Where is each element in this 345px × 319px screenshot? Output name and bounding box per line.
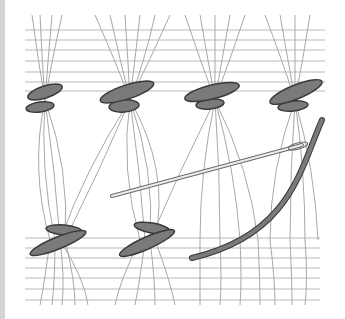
stitch-top-1 [25,81,64,114]
stitch-top-4 [267,75,324,113]
working-thread [192,120,322,258]
stitch-bottom-1 [28,223,88,259]
bottom-stitches [28,220,177,261]
hemstitch-illustration [0,0,345,319]
fabric-bottom-weave [25,238,320,300]
vertical-threads [32,15,318,305]
stitch-bottom-2 [117,220,177,261]
top-stitches [25,75,324,114]
needle [112,141,308,196]
fabric-top-weave [25,30,325,91]
